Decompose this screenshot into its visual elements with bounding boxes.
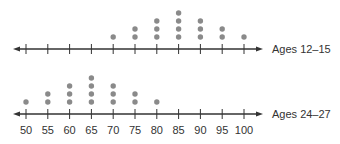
data-dot [132,91,137,96]
tick-label: 100 [235,124,253,136]
arrow-right-icon [256,111,263,116]
data-dot [45,91,50,96]
data-dot [154,18,159,23]
data-dot [111,83,116,88]
data-dot [220,26,225,31]
data-dot [23,99,28,104]
data-dot [67,99,72,104]
arrow-right-icon [256,46,263,51]
data-dot [111,34,116,39]
arrow-left-icon [13,111,20,116]
data-dot [241,34,246,39]
tick-label: 55 [42,124,54,136]
data-dot [220,34,225,39]
tick-label: 50 [20,124,32,136]
series-label-ages-12-15: Ages 12–15 [272,43,331,55]
x-axis-tick-labels: 50556065707580859095100 [20,124,253,136]
dot-plot-ages-12-15 [13,10,263,54]
data-dot [176,34,181,39]
data-dot [89,83,94,88]
data-dot [198,26,203,31]
data-dot [67,83,72,88]
data-dot [67,91,72,96]
data-dot [154,26,159,31]
data-dot [132,34,137,39]
data-dot [111,91,116,96]
tick-label: 80 [151,124,163,136]
series-label-ages-24-27: Ages 24–27 [272,108,331,120]
data-dot [132,99,137,104]
data-dot [176,18,181,23]
data-dot [132,26,137,31]
dot-plot-chart: 50556065707580859095100 Ages 12–15 Ages … [0,0,340,144]
data-dot [111,99,116,104]
tick-label: 60 [63,124,75,136]
data-dot [198,34,203,39]
data-dot [176,26,181,31]
data-dot [89,91,94,96]
arrow-left-icon [13,46,20,51]
data-dot [198,18,203,23]
tick-label: 90 [194,124,206,136]
tick-label: 65 [85,124,97,136]
data-dot [154,99,159,104]
data-dot [89,99,94,104]
dot-plot-ages-24-27 [13,75,263,119]
tick-label: 70 [107,124,119,136]
tick-label: 95 [216,124,228,136]
data-dot [89,75,94,80]
data-dot [45,99,50,104]
tick-label: 75 [129,124,141,136]
tick-label: 85 [172,124,184,136]
data-dot [154,34,159,39]
data-dot [176,10,181,15]
